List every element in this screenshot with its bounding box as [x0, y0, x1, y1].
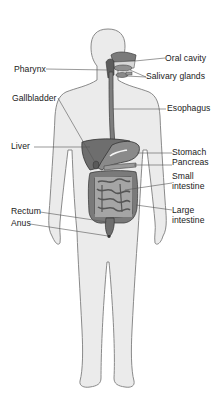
- label-large-intestine-line2: intestine: [172, 216, 204, 226]
- label-oral-cavity: Oral cavity: [165, 54, 206, 64]
- label-gallbladder: Gallbladder: [12, 94, 57, 104]
- label-pancreas: Pancreas: [172, 158, 209, 168]
- label-pharynx: Pharynx: [14, 65, 46, 75]
- label-liver: Liver: [11, 142, 30, 152]
- label-rectum: Rectum: [11, 207, 41, 217]
- small-intestine-illustration: [95, 177, 132, 217]
- anus-illustration: [107, 235, 110, 238]
- label-anus: Anus: [11, 219, 31, 229]
- label-small-intestine-line2: intestine: [172, 182, 204, 192]
- label-salivary-glands: Salivary glands: [146, 72, 205, 82]
- digestive-system-diagram: Oral cavity Pharynx Salivary glands Gall…: [0, 0, 214, 395]
- label-esophagus: Esophagus: [167, 104, 210, 114]
